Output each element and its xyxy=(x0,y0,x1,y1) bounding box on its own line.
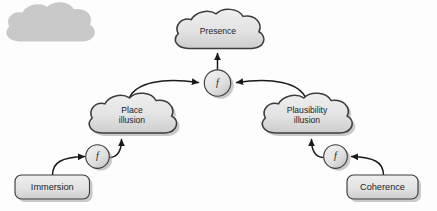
node-coherence[interactable]: Coherence xyxy=(347,175,421,202)
node-function-left[interactable]: f xyxy=(86,145,113,171)
edge-coherence-to-function-right xyxy=(352,157,384,175)
node-function-right[interactable]: f xyxy=(324,145,351,171)
presence-shadow xyxy=(6,2,95,41)
plausibility-illusion-label-line1: Plausibility xyxy=(287,105,328,115)
place-illusion-label-line1: Place xyxy=(121,105,143,115)
node-place-illusion[interactable]: Place illusion xyxy=(89,93,179,136)
node-function-top[interactable]: f xyxy=(204,70,233,99)
place-illusion-label-line2: illusion xyxy=(119,115,145,125)
edge-function-left-to-place-illusion xyxy=(111,140,122,158)
edge-immersion-to-function-left xyxy=(53,157,85,175)
node-immersion[interactable]: Immersion xyxy=(15,175,93,202)
node-plausibility-illusion[interactable]: Plausibility illusion xyxy=(262,93,355,136)
node-presence[interactable]: Presence xyxy=(6,2,264,48)
presence-label: Presence xyxy=(200,26,237,36)
coherence-label: Coherence xyxy=(360,182,405,192)
plausibility-illusion-label-line2: illusion xyxy=(294,115,320,125)
immersion-label: Immersion xyxy=(31,182,74,192)
diagram-canvas: Presence Place illusion Plausibility ill… xyxy=(0,0,437,211)
presence-model-diagram: Presence Place illusion Plausibility ill… xyxy=(0,0,437,211)
edge-function-right-to-plausibility-illusion xyxy=(312,140,323,158)
